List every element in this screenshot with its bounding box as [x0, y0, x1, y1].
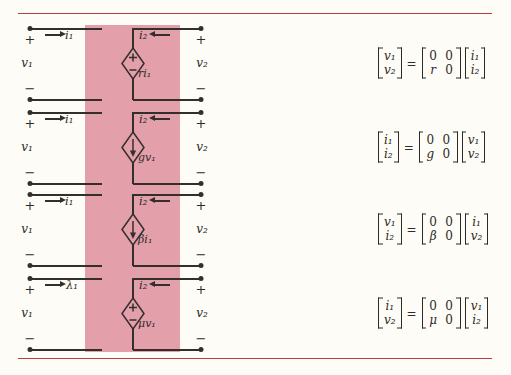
wire	[133, 349, 201, 351]
source-label: gv₁	[138, 152, 156, 163]
right-plus-sign: +	[196, 117, 207, 130]
right-current-arrow-icon	[155, 34, 170, 36]
vector-entry: v₁	[384, 50, 396, 64]
left-current-label: λ₁	[66, 279, 78, 291]
parameter-matrix: 0 0 r 0	[422, 48, 461, 79]
wire	[132, 79, 134, 100]
rhs-vector: v₁ v₂	[462, 132, 486, 163]
terminal-dot	[28, 192, 33, 197]
right-current-arrow-icon	[155, 200, 170, 202]
matrix-entry: β	[428, 229, 439, 243]
vector-entry: v₂	[471, 229, 483, 243]
matrix-entry: 0	[441, 134, 452, 148]
left-minus-sign: −	[25, 166, 36, 179]
bottom-rule	[18, 358, 492, 360]
left-minus-sign: −	[25, 248, 36, 261]
matrix-row: 0 0	[428, 300, 455, 314]
right-minus-sign: −	[196, 332, 207, 345]
matrix-entry: 0	[425, 134, 436, 148]
wire	[30, 349, 102, 351]
vector-entry: v₁	[471, 300, 483, 314]
wire	[132, 28, 134, 49]
right-port-voltage-label: v₂	[196, 223, 208, 235]
terminal-dot	[28, 26, 33, 31]
terminal-dot	[199, 181, 204, 186]
terminal-dot	[199, 263, 204, 268]
right-minus-sign: −	[196, 166, 207, 179]
wire	[132, 163, 134, 184]
left-port-voltage-label: v₁	[21, 223, 33, 235]
equals-sign: =	[403, 140, 415, 154]
terminal-dot	[28, 276, 33, 281]
vector-entry: i₂	[471, 63, 480, 77]
left-plus-sign: +	[25, 283, 36, 296]
vector-entry: v₁	[468, 134, 480, 148]
matrix-entry: 0	[444, 216, 455, 230]
matrix-entry: r	[428, 63, 439, 77]
wire	[132, 194, 134, 215]
terminal-dot	[199, 110, 204, 115]
wire	[132, 278, 134, 299]
top-rule	[18, 13, 492, 15]
matrix-entry: g	[425, 147, 436, 161]
matrix-entry: 0	[444, 50, 455, 64]
equals-sign: =	[406, 306, 418, 320]
matrix-entry: 0	[444, 313, 455, 327]
left-port-voltage-label: v₁	[21, 141, 33, 153]
left-current-label: i₁	[65, 195, 73, 207]
rhs-vector: i₁ v₂	[465, 214, 489, 245]
matrix-row: g 0	[425, 147, 452, 161]
matrix-row: 0 0	[425, 134, 452, 148]
terminal-dot	[199, 26, 204, 31]
lhs-vector: i₁ i₂	[378, 132, 399, 163]
wire	[30, 99, 102, 101]
left-current-label: i₁	[65, 29, 73, 41]
left-port-voltage-label: v₁	[21, 57, 33, 69]
terminal-dot	[199, 276, 204, 281]
vector-entry: i₂	[384, 147, 393, 161]
right-port-voltage-label: v₂	[196, 57, 208, 69]
right-plus-sign: +	[196, 283, 207, 296]
right-port-voltage-label: v₂	[196, 307, 208, 319]
matrix-entry: 0	[428, 300, 439, 314]
left-current-label: i₁	[65, 113, 73, 125]
lhs-vector: i₁ v₂	[378, 298, 402, 329]
equals-sign: =	[406, 222, 418, 236]
two-port-dependent-sources-figure: + − + − v₁ v₂ i₁ i₂ ri₁ + − + − v₁ v	[0, 0, 511, 375]
matrix-entry: 0	[444, 300, 455, 314]
wire	[132, 245, 134, 266]
rhs-vector: v₁ i₂	[465, 298, 489, 329]
parameter-matrix: 0 0 μ 0	[422, 298, 461, 329]
lhs-vector: v₁ i₂	[378, 214, 402, 245]
terminal-dot	[28, 181, 33, 186]
vector-entry: v₂	[384, 63, 396, 77]
right-current-label: i₂	[139, 29, 147, 41]
equation-ccvs: v₁ v₂ = 0 0 r 0 i₁ i₂	[378, 48, 485, 79]
wire	[133, 183, 201, 185]
left-plus-sign: +	[25, 117, 36, 130]
right-port-voltage-label: v₂	[196, 141, 208, 153]
equals-sign: =	[406, 56, 418, 70]
vector-entry: v₂	[384, 313, 396, 327]
vector-entry: v₂	[468, 147, 480, 161]
vector-entry: v₁	[384, 216, 396, 230]
matrix-entry: 0	[428, 216, 439, 230]
right-current-arrow-icon	[155, 118, 170, 120]
terminal-dot	[28, 347, 33, 352]
right-current-label: i₂	[139, 113, 147, 125]
wire	[30, 265, 102, 267]
terminal-dot	[199, 192, 204, 197]
vector-entry: i₁	[471, 50, 480, 64]
wire	[133, 265, 201, 267]
source-label: μv₁	[138, 318, 156, 329]
matrix-entry: 0	[444, 63, 455, 77]
right-plus-sign: +	[196, 33, 207, 46]
rhs-vector: i₁ i₂	[465, 48, 486, 79]
vector-entry: i₁	[472, 216, 481, 230]
right-current-label: i₂	[139, 195, 147, 207]
source-label: ri₁	[138, 68, 151, 79]
left-minus-sign: −	[25, 332, 36, 345]
lhs-vector: v₁ v₂	[378, 48, 402, 79]
matrix-row: r 0	[428, 63, 455, 77]
matrix-entry: 0	[441, 147, 452, 161]
